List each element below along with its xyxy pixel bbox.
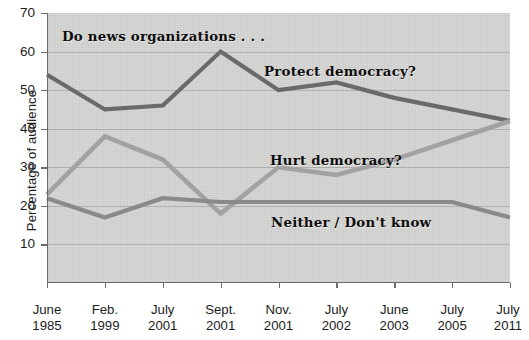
xtick-label-8: July 2011 <box>473 302 529 333</box>
ytick-mark-20 <box>41 206 47 207</box>
ytick-mark-10 <box>41 244 47 245</box>
series-line-protect-democracy <box>47 52 510 121</box>
ytick-mark-40 <box>41 129 47 130</box>
xtick-mark-5 <box>336 283 337 288</box>
xtick-mark-6 <box>394 283 395 288</box>
xtick-mark-0 <box>47 283 48 288</box>
chart-root: 70 60 50 40 30 20 10 June 1985 Feb. 1999… <box>0 0 529 340</box>
xtick-mark-3 <box>221 283 222 288</box>
xtick-mark-7 <box>452 283 453 288</box>
xtick-label-8-month: July <box>473 302 529 318</box>
ytick-mark-30 <box>41 167 47 168</box>
xtick-mark-4 <box>279 283 280 288</box>
xtick-mark-2 <box>163 283 164 288</box>
series-label-protect-democracy: Protect democracy? <box>264 63 416 79</box>
chart-title-annotation: Do news organizations . . . <box>62 28 265 44</box>
xtick-mark-1 <box>105 283 106 288</box>
ytick-mark-70 <box>41 13 47 14</box>
xtick-label-8-year: 2011 <box>473 318 529 334</box>
series-label-hurt-democracy: Hurt democracy? <box>270 152 402 168</box>
xtick-mark-8 <box>510 283 511 288</box>
plot-area: 70 60 50 40 30 20 10 June 1985 Feb. 1999… <box>47 13 510 283</box>
series-lines <box>47 13 510 283</box>
y-axis-title: Percentage of audience <box>24 11 39 311</box>
series-label-neither-dont-know: Neither / Don't know <box>271 214 431 230</box>
ytick-mark-60 <box>41 52 47 53</box>
ytick-mark-50 <box>41 90 47 91</box>
